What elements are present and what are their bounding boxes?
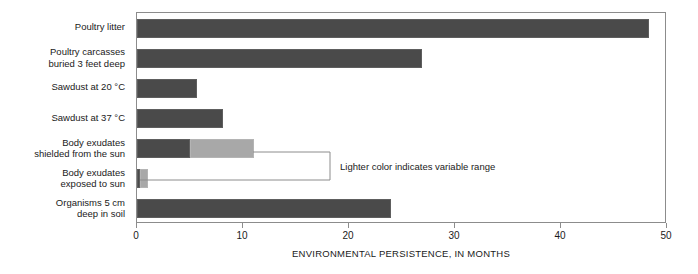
bar-row — [137, 19, 667, 38]
x-tick-label: 20 — [342, 230, 353, 241]
x-tick — [136, 223, 137, 228]
category-label: Sawdust at 37 °C — [0, 112, 131, 124]
bar-segment-typical — [137, 49, 422, 68]
category-label: Body exudates exposed to sun — [0, 166, 131, 189]
category-label: Sawdust at 20 °C — [0, 82, 131, 94]
category-axis-labels: Poultry litterPoultry carcasses buried 3… — [0, 0, 131, 223]
bar-segment-typical — [137, 19, 649, 38]
category-label: Body exudates shielded from the sun — [0, 136, 131, 159]
x-tick-label: 40 — [554, 230, 565, 241]
x-tick — [666, 223, 667, 228]
x-tick-label: 10 — [236, 230, 247, 241]
bar-segment-variable-range — [140, 169, 147, 188]
x-tick — [348, 223, 349, 228]
x-axis: 01020304050 — [136, 223, 666, 247]
bar-row — [137, 79, 667, 98]
bar-segment-typical — [137, 139, 190, 158]
category-label: Poultry litter — [0, 21, 131, 33]
bar-row — [137, 199, 667, 218]
x-tick — [242, 223, 243, 228]
x-tick-label: 30 — [448, 230, 459, 241]
x-tick-label: 50 — [660, 230, 671, 241]
bar-row — [137, 139, 667, 158]
chart-figure: Poultry litterPoultry carcasses buried 3… — [0, 0, 698, 274]
x-tick — [454, 223, 455, 228]
plot-area — [136, 12, 666, 223]
category-label: Organisms 5 cm deep in soil — [0, 196, 131, 219]
bar-row — [137, 109, 667, 128]
bar-row — [137, 169, 667, 188]
x-axis-title: ENVIRONMENTAL PERSISTENCE, IN MONTHS — [136, 248, 666, 259]
bar-segment-typical — [137, 79, 197, 98]
bar-row — [137, 49, 667, 68]
bar-segment-typical — [137, 199, 391, 218]
x-tick — [560, 223, 561, 228]
bar-segment-typical — [137, 109, 223, 128]
category-label: Poultry carcasses buried 3 feet deep — [0, 46, 131, 69]
x-tick-label: 0 — [133, 230, 139, 241]
variable-range-callout-label: Lighter color indicates variable range — [340, 161, 495, 172]
bar-segment-variable-range — [190, 139, 254, 158]
